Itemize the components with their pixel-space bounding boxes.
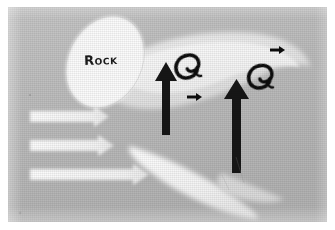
figure-root: Rock [0,0,335,230]
rock-label: Rock [84,52,144,67]
photo-plate: Rock [8,7,327,222]
diagram-canvas [8,7,327,222]
